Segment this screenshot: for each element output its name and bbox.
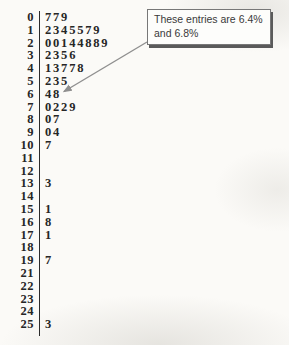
- stem-leaf-row: 253: [0, 318, 109, 331]
- stem-and-leaf-plot: 0779123455792001448893235641377852356487…: [0, 11, 109, 336]
- callout-text-line2: and 6.8%: [154, 27, 265, 41]
- leaf-values: [39, 293, 45, 306]
- stem-leaf-row: 171: [0, 229, 109, 242]
- stem-leaf-row: 5235: [0, 75, 109, 88]
- leaf-values: 8: [39, 216, 53, 229]
- stem-leaf-row: 14: [0, 190, 109, 203]
- callout-text-line1: These entries are 6.4%: [154, 13, 265, 27]
- stem-leaf-row: 197: [0, 254, 109, 267]
- leaf-values: [39, 280, 45, 293]
- stem-value: 16: [0, 216, 39, 229]
- stem-leaf-row: 0779: [0, 11, 109, 24]
- stem-leaf-row: 12345579: [0, 24, 109, 37]
- stem-leaf-row: 18: [0, 241, 109, 254]
- divider-line-tail: [39, 331, 44, 336]
- stem-leaf-row: 21: [0, 267, 109, 280]
- stem-value: 5: [0, 75, 39, 88]
- stem-leaf-row: 22: [0, 280, 109, 293]
- stem-value: 1: [0, 24, 39, 37]
- stem-value: 0: [0, 11, 39, 24]
- leaf-values: 1: [39, 203, 53, 216]
- stem-value: 15: [0, 203, 39, 216]
- stem-leaf-row: 23: [0, 293, 109, 306]
- leaf-values: 779: [39, 11, 69, 24]
- stem-value: 10: [0, 139, 39, 152]
- leaf-values: 3: [39, 318, 53, 331]
- leaf-values: 7: [39, 254, 53, 267]
- stem-value: 22: [0, 280, 39, 293]
- stem-value: 11: [0, 152, 39, 165]
- stem-leaf-row: 12: [0, 165, 109, 178]
- stem-leaf-row: 24: [0, 305, 109, 318]
- stem-leaf-row: 168: [0, 216, 109, 229]
- leaf-values: [39, 152, 45, 165]
- stem-and-leaf-screenshot: 0779123455792001448893235641377852356487…: [0, 0, 289, 345]
- leaf-values: 235: [39, 75, 69, 88]
- stem-leaf-row: 151: [0, 203, 109, 216]
- stem-value: 21: [0, 267, 39, 280]
- leaf-values: 1: [39, 229, 53, 242]
- stem-leaf-row: 648: [0, 88, 109, 101]
- stem-leaf-row: 107: [0, 139, 109, 152]
- stem-leaf-row: 133: [0, 177, 109, 190]
- leaf-values: 48: [39, 88, 61, 101]
- stem-leaf-row: 11: [0, 152, 109, 165]
- leaf-values: 7: [39, 139, 53, 152]
- stem-value: 6: [0, 88, 39, 101]
- leaf-values: 2345579: [39, 24, 101, 37]
- callout-box: These entries are 6.4% and 6.8%: [147, 9, 271, 45]
- leaf-values: [39, 267, 45, 280]
- stem-value: 25: [0, 318, 39, 331]
- stem-leaf-row: 904: [0, 126, 109, 139]
- leaf-values: 3: [39, 177, 53, 190]
